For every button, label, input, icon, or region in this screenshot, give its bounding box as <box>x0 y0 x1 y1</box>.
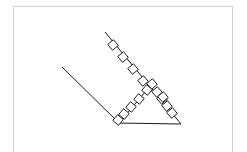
lower-left-ray <box>62 67 119 123</box>
interior-line-squares-2 <box>126 102 137 113</box>
figure-lines <box>62 32 181 124</box>
upper-ray-squares-1 <box>118 52 129 63</box>
unit-square-markers <box>108 40 178 126</box>
base-line <box>117 123 181 124</box>
upper-ray-squares-2 <box>128 64 139 75</box>
upper-ray-squares-0 <box>108 40 119 51</box>
geometry-figure <box>14 7 233 152</box>
figure-frame <box>13 6 233 152</box>
screenshot-canvas <box>0 0 247 152</box>
